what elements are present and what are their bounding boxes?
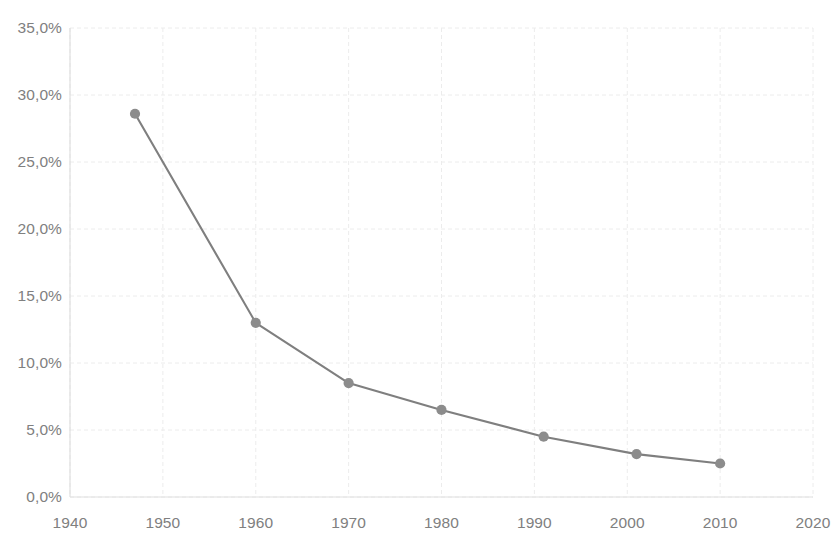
line-chart: 0,0%5,0%10,0%15,0%20,0%25,0%30,0%35,0% 1… [0, 0, 836, 544]
y-axis-tick-label: 30,0% [18, 86, 62, 104]
y-axis-tick-label: 25,0% [18, 153, 62, 171]
x-gridlines [70, 28, 813, 497]
data-point-marker [344, 378, 354, 388]
x-axis-tick-label: 2000 [610, 514, 645, 532]
data-point-marker [631, 449, 641, 459]
data-point-marker [539, 432, 549, 442]
y-axis-tick-label: 35,0% [18, 19, 62, 37]
data-point-marker [436, 405, 446, 415]
x-axis-tick-label: 2010 [703, 514, 738, 532]
plot-area [0, 0, 836, 544]
data-line [135, 114, 720, 464]
x-axis-tick-label: 1990 [517, 514, 552, 532]
x-axis-tick-label: 2020 [796, 514, 831, 532]
y-axis-tick-label: 20,0% [18, 220, 62, 238]
x-axis-tick-label: 1960 [238, 514, 273, 532]
series-markers [130, 109, 725, 469]
y-axis-tick-label: 15,0% [18, 287, 62, 305]
y-axis-tick-label: 0,0% [26, 488, 62, 506]
data-point-marker [715, 458, 725, 468]
data-point-marker [251, 318, 261, 328]
x-axis-tick-label: 1980 [424, 514, 459, 532]
x-axis-tick-label: 1950 [145, 514, 180, 532]
series-line [135, 114, 720, 464]
x-axis-tick-label: 1940 [53, 514, 88, 532]
y-axis-tick-label: 10,0% [18, 354, 62, 372]
y-axis-tick-label: 5,0% [26, 421, 62, 439]
data-point-marker [130, 109, 140, 119]
x-axis-tick-label: 1970 [331, 514, 366, 532]
